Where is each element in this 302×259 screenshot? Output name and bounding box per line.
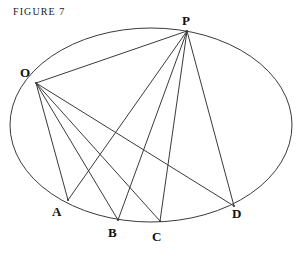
segment-o-p [36, 31, 187, 83]
vertex-dot-b [117, 219, 119, 221]
point-label-b: B [108, 226, 117, 239]
segment-p-a [68, 31, 187, 200]
chord-segments [36, 31, 234, 221]
segment-o-b [36, 83, 118, 220]
vertex-dot-c [159, 220, 161, 222]
segment-o-d [36, 83, 234, 206]
ellipse-outline [10, 28, 292, 222]
vertex-dot-p [186, 30, 188, 32]
segment-p-d [187, 31, 234, 206]
point-label-o: O [20, 66, 30, 79]
point-label-d: D [232, 207, 241, 220]
segment-p-b [118, 31, 187, 220]
point-label-p: P [182, 14, 190, 27]
figure-container: FIGURE 7 O P A B C D [0, 0, 302, 259]
vertex-dot-a [67, 199, 69, 201]
point-label-c: C [152, 230, 161, 243]
segment-p-c [160, 31, 187, 221]
geometry-diagram [0, 0, 302, 259]
point-label-a: A [52, 205, 61, 218]
vertex-dot-o [35, 82, 37, 84]
